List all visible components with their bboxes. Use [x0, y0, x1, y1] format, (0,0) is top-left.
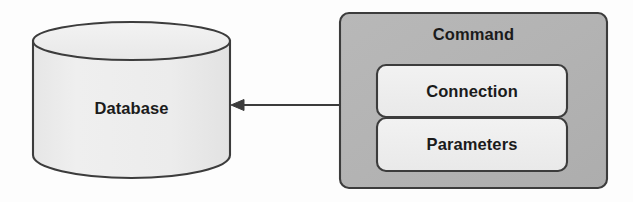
parameters-node-label: Parameters	[377, 134, 567, 154]
arrow-head-icon	[231, 100, 244, 111]
database-node-label: Database	[33, 98, 230, 118]
diagram-canvas: Database Command Connection Parameters	[0, 0, 633, 202]
command-to-database-arrow	[231, 100, 340, 111]
database-cylinder-top	[33, 22, 230, 60]
connection-node-label: Connection	[377, 81, 567, 101]
command-node-label: Command	[340, 24, 607, 44]
